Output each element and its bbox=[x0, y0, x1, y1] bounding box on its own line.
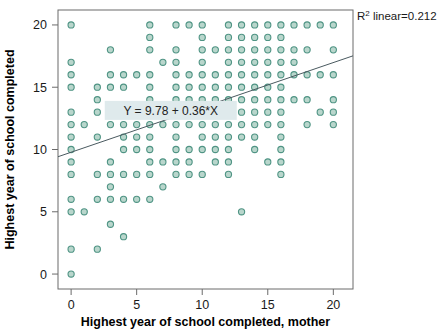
data-point bbox=[238, 47, 244, 53]
data-point bbox=[238, 209, 244, 215]
data-point bbox=[212, 159, 218, 165]
data-point bbox=[120, 196, 126, 202]
data-point bbox=[186, 84, 192, 90]
data-point bbox=[252, 47, 258, 53]
data-point bbox=[147, 47, 153, 53]
data-point bbox=[291, 47, 297, 53]
data-point bbox=[199, 72, 205, 78]
data-point bbox=[252, 97, 258, 103]
data-point bbox=[212, 134, 218, 140]
data-point bbox=[265, 59, 271, 65]
data-point bbox=[107, 196, 113, 202]
data-point bbox=[238, 22, 244, 28]
data-point bbox=[173, 84, 179, 90]
plot-svg: 0510152005101520Highest year of school c… bbox=[0, 0, 440, 333]
data-point bbox=[134, 171, 140, 177]
data-point bbox=[147, 134, 153, 140]
data-point bbox=[186, 22, 192, 28]
data-point bbox=[291, 97, 297, 103]
data-point bbox=[199, 146, 205, 152]
data-point bbox=[160, 159, 166, 165]
data-point bbox=[330, 97, 336, 103]
data-point bbox=[68, 22, 74, 28]
data-point bbox=[291, 22, 297, 28]
data-point bbox=[134, 196, 140, 202]
data-point bbox=[238, 121, 244, 127]
data-point bbox=[238, 59, 244, 65]
data-point bbox=[252, 109, 258, 115]
data-point bbox=[68, 84, 74, 90]
data-point bbox=[212, 72, 218, 78]
data-point bbox=[278, 34, 284, 40]
data-point bbox=[265, 47, 271, 53]
data-point bbox=[173, 47, 179, 53]
data-point bbox=[107, 84, 113, 90]
data-point bbox=[134, 134, 140, 140]
data-point bbox=[147, 72, 153, 78]
data-point bbox=[252, 59, 258, 65]
data-point bbox=[68, 159, 74, 165]
data-point bbox=[186, 171, 192, 177]
data-point bbox=[212, 47, 218, 53]
data-point bbox=[265, 22, 271, 28]
data-point bbox=[278, 109, 284, 115]
data-point bbox=[147, 22, 153, 28]
data-point bbox=[120, 72, 126, 78]
data-point bbox=[278, 84, 284, 90]
data-point bbox=[160, 59, 166, 65]
y-tick-label: 5 bbox=[40, 205, 47, 219]
data-point bbox=[238, 72, 244, 78]
y-axis-title: Highest year of school completed bbox=[3, 49, 17, 249]
data-point bbox=[278, 159, 284, 165]
y-tick-label: 20 bbox=[33, 18, 47, 32]
data-point bbox=[330, 109, 336, 115]
data-point bbox=[107, 221, 113, 227]
data-point bbox=[225, 159, 231, 165]
x-tick-label: 0 bbox=[68, 298, 75, 312]
data-point bbox=[212, 84, 218, 90]
data-point bbox=[94, 97, 100, 103]
data-point bbox=[120, 84, 126, 90]
data-point bbox=[186, 121, 192, 127]
data-point bbox=[265, 109, 271, 115]
data-point bbox=[330, 47, 336, 53]
x-tick-label: 20 bbox=[326, 298, 340, 312]
data-point bbox=[160, 121, 166, 127]
data-point bbox=[304, 121, 310, 127]
x-tick-label: 10 bbox=[195, 298, 209, 312]
data-point bbox=[120, 171, 126, 177]
data-point bbox=[107, 171, 113, 177]
data-point bbox=[107, 159, 113, 165]
data-point bbox=[94, 246, 100, 252]
data-point bbox=[81, 209, 87, 215]
data-point bbox=[265, 34, 271, 40]
data-point bbox=[304, 22, 310, 28]
scatter-plot-figure: 0510152005101520Highest year of school c… bbox=[0, 0, 440, 333]
data-point bbox=[278, 72, 284, 78]
data-point bbox=[68, 196, 74, 202]
data-point bbox=[330, 72, 336, 78]
data-point bbox=[225, 34, 231, 40]
data-point bbox=[278, 171, 284, 177]
data-point bbox=[173, 22, 179, 28]
data-point bbox=[173, 171, 179, 177]
data-point bbox=[225, 121, 231, 127]
data-point bbox=[147, 146, 153, 152]
data-point bbox=[186, 72, 192, 78]
data-point bbox=[238, 34, 244, 40]
data-point bbox=[173, 72, 179, 78]
data-point bbox=[278, 146, 284, 152]
data-point bbox=[238, 109, 244, 115]
data-point bbox=[81, 121, 87, 127]
data-point bbox=[199, 171, 205, 177]
data-point bbox=[225, 22, 231, 28]
data-point bbox=[68, 171, 74, 177]
r2-annotation: R2 linear=0.212 bbox=[357, 9, 437, 23]
data-point bbox=[94, 171, 100, 177]
data-point bbox=[68, 121, 74, 127]
data-point bbox=[173, 59, 179, 65]
data-point bbox=[147, 34, 153, 40]
x-axis-title: Highest year of school completed, mother bbox=[81, 315, 330, 329]
y-tick-label: 15 bbox=[33, 81, 47, 95]
equation-label: Y = 9.78 + 0.36*X bbox=[123, 104, 218, 118]
